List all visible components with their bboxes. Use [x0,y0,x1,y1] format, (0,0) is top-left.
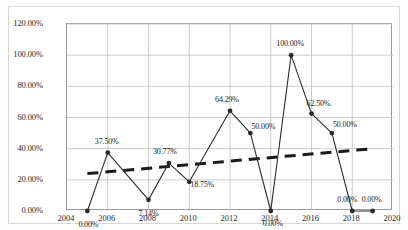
data-point-label: 62.50% [307,98,331,107]
plot-area [66,23,392,210]
data-point-label: 0.00% [263,219,283,228]
data-point-label: 64.29% [215,94,239,103]
y-axis-tick-label: 120.00% [0,18,43,28]
x-axis-tick-label: 2010 [170,213,206,223]
data-point-label: 30.77% [153,147,177,156]
y-axis-tick-label: 40.00% [0,143,43,153]
data-point-label: 0.00% [362,195,382,204]
chart-container: 0.00%20.00%40.00%60.00%80.00%100.00%120.… [0,0,408,230]
data-point-label: 18.75% [190,179,214,188]
x-axis-tick-label: 2012 [211,213,247,223]
x-axis-tick-label: 2020 [374,213,408,223]
data-point-label: 0.00% [337,195,357,204]
x-axis-tick-label: 2018 [333,213,369,223]
data-point-label: 50.00% [333,120,357,129]
data-series-line [67,24,393,211]
y-axis-tick-label: 60.00% [0,112,43,122]
y-axis-tick-label: 0.00% [0,205,43,215]
x-axis-tick-label: 2016 [293,213,329,223]
data-point-label: 100.00% [276,39,304,48]
data-point-label: 0.00% [78,220,98,229]
data-point-label: 50.00% [251,122,275,131]
y-axis-tick-label: 100.00% [0,49,43,59]
y-axis-tick-label: 80.00% [0,80,43,90]
chart-frame: 0.00%20.00%40.00%60.00%80.00%100.00%120.… [8,6,400,224]
data-point-label: 37.50% [95,136,119,145]
data-point-label: 7.14% [139,208,159,217]
y-axis-tick-label: 20.00% [0,174,43,184]
